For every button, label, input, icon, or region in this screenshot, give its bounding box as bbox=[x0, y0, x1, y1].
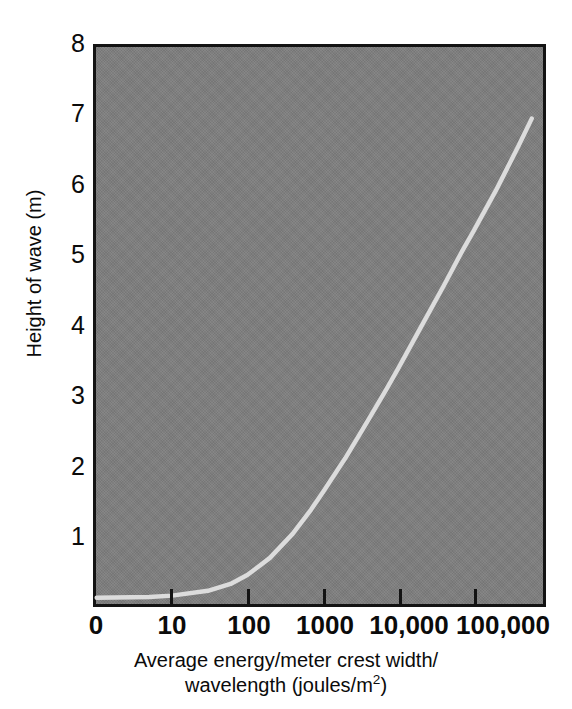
data-curve-wave-height bbox=[97, 119, 532, 598]
y-tick-label-5-wrap: 5 bbox=[63, 242, 85, 268]
x-tick-mark-100000 bbox=[474, 589, 477, 607]
y-tick-label-8-wrap: 8 bbox=[63, 31, 85, 57]
y-tick-label-1-wrap: 1 bbox=[63, 524, 85, 550]
y-axis-title: Height of wave (m) bbox=[23, 144, 46, 404]
y-tick-label-3-wrap: 3 bbox=[63, 383, 85, 409]
x-tick-mark-100 bbox=[247, 589, 250, 607]
plot-area bbox=[93, 44, 546, 607]
x-axis-title-line-1: Average energy/meter crest width/ bbox=[40, 648, 532, 672]
x-tick-mark-10 bbox=[170, 589, 173, 607]
data-curve-svg bbox=[96, 47, 543, 604]
y-tick-label-5: 5 bbox=[63, 242, 85, 267]
y-tick-label-8: 8 bbox=[63, 31, 85, 56]
x-axis-title-line-2-text: wavelength (joules/m bbox=[185, 674, 373, 696]
x-tick-mark-10000 bbox=[399, 589, 402, 607]
chart-figure: Height of wave (m) 8 7 6 5 4 3 2 1 0 10 … bbox=[0, 0, 572, 709]
y-tick-label-7-wrap: 7 bbox=[63, 101, 85, 127]
y-tick-label-4-wrap: 4 bbox=[63, 313, 85, 339]
y-tick-label-2: 2 bbox=[63, 454, 85, 479]
y-tick-label-6: 6 bbox=[63, 172, 85, 197]
x-tick-label-100000: 100,000 bbox=[438, 612, 568, 639]
y-tick-label-7: 7 bbox=[63, 101, 85, 126]
x-axis-title: Average energy/meter crest width/ wavele… bbox=[40, 648, 532, 697]
y-tick-label-4: 4 bbox=[63, 313, 85, 338]
x-axis-title-line-2-close: ) bbox=[380, 674, 387, 696]
y-tick-label-3: 3 bbox=[63, 383, 85, 408]
y-tick-label-6-wrap: 6 bbox=[63, 172, 85, 198]
x-tick-mark-1000 bbox=[323, 589, 326, 607]
x-axis-title-line-2: wavelength (joules/m2) bbox=[40, 672, 532, 697]
y-tick-label-1: 1 bbox=[63, 524, 85, 549]
y-tick-label-2-wrap: 2 bbox=[63, 454, 85, 480]
